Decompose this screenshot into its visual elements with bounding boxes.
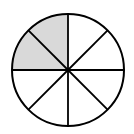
center-point bbox=[66, 68, 70, 72]
fraction-circle-diagram bbox=[0, 0, 134, 134]
